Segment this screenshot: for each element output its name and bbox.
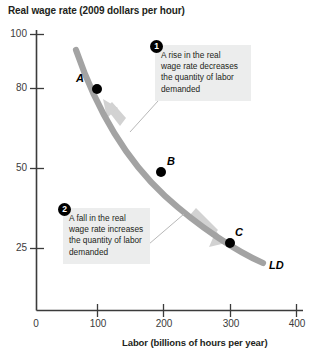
annotation-box-1: A rise in the real wage rate decreases t… bbox=[155, 45, 251, 101]
data-point-a bbox=[92, 84, 102, 94]
annotation-2-line-3: the quantity of labor bbox=[69, 235, 146, 246]
x-tick-label-300: 300 bbox=[217, 318, 245, 329]
annotation-2-line-1: A fall in the real bbox=[69, 213, 146, 224]
curve-label-ld: LD bbox=[269, 259, 284, 271]
y-tick-label-100: 100 bbox=[2, 28, 27, 39]
annotation-badge-1: 1 bbox=[150, 40, 163, 53]
x-axis-title: Labor (billions of hours per year) bbox=[122, 337, 267, 348]
data-point-c bbox=[225, 238, 235, 248]
point-label-c: C bbox=[235, 226, 243, 238]
callout-2-leader bbox=[149, 214, 184, 244]
annotation-1-line-1: A rise in the real bbox=[161, 50, 247, 61]
point-label-a: A bbox=[76, 72, 84, 84]
x-tick-label-0: 0 bbox=[23, 318, 49, 329]
callout-1-leader bbox=[130, 101, 158, 132]
annotation-box-2: A fall in the real wage rate increases t… bbox=[63, 208, 150, 264]
annotation-1-line-2: wage rate decreases bbox=[161, 61, 247, 72]
annotation-2-line-2: wage rate increases bbox=[69, 224, 146, 235]
annotation-badge-2: 2 bbox=[58, 203, 71, 216]
y-tick-label-80: 80 bbox=[2, 82, 27, 93]
y-tick-label-50: 50 bbox=[2, 162, 27, 173]
y-tick-label-25: 25 bbox=[2, 242, 27, 253]
chart-figure: Real wage rate (2009 dollars per hour) bbox=[0, 0, 311, 360]
data-point-b bbox=[156, 167, 166, 177]
x-tick-label-100: 100 bbox=[84, 318, 112, 329]
point-label-b: B bbox=[167, 155, 175, 167]
x-tick-label-200: 200 bbox=[150, 318, 178, 329]
x-tick-label-400: 400 bbox=[283, 318, 311, 329]
annotation-1-line-3: the quantity of labor bbox=[161, 72, 247, 83]
annotation-2-line-4: demanded bbox=[69, 247, 146, 258]
annotation-1-line-4: demanded bbox=[161, 84, 247, 95]
